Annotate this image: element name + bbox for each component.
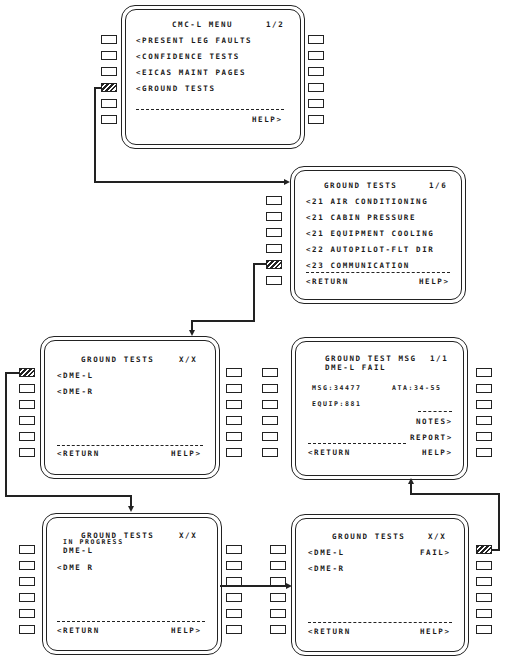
line-select-key-r6[interactable] — [476, 448, 492, 457]
line-select-key-l5[interactable] — [19, 609, 35, 618]
line-select-key-r2[interactable] — [226, 384, 242, 393]
menu-item-ground-tests[interactable]: <GROUND TESTS — [136, 84, 216, 93]
line-select-key-l6[interactable] — [266, 276, 282, 285]
line-select-key-l2[interactable] — [19, 384, 35, 393]
line-select-key-l1[interactable] — [262, 368, 278, 377]
help-prompt[interactable]: HELP> — [420, 627, 451, 636]
return-prompt[interactable]: <RETURN — [57, 626, 100, 635]
menu-item-air-conditioning[interactable]: <21 AIR CONDITIONING — [306, 197, 428, 206]
help-prompt[interactable]: HELP> — [422, 448, 453, 457]
menu-item-dme-l[interactable]: <DME-L — [57, 371, 94, 380]
menu-item-equipment-cooling[interactable]: <21 EQUIPMENT COOLING — [306, 229, 434, 238]
line-select-key-r5[interactable] — [226, 432, 242, 441]
line-select-key-l4[interactable] — [19, 416, 35, 425]
line-select-key-r1[interactable] — [226, 545, 242, 554]
line-select-key-l1[interactable] — [19, 545, 35, 554]
divider — [308, 443, 406, 444]
menu-item-communication[interactable]: <23 COMMUNICATION — [306, 261, 410, 270]
line-select-key-l1[interactable] — [270, 545, 286, 554]
line-select-key-l2[interactable] — [266, 212, 282, 221]
line-select-key-r4[interactable] — [476, 416, 492, 425]
fail-result-prompt[interactable]: FAIL> — [420, 548, 451, 557]
divider — [57, 621, 205, 622]
return-prompt[interactable]: <RETURN — [308, 627, 351, 636]
arrow-icon — [128, 506, 134, 512]
line-select-key-r6[interactable] — [476, 625, 492, 634]
line-select-key-r1-pressed[interactable] — [476, 545, 492, 554]
line-select-key-l6[interactable] — [270, 625, 286, 634]
line-select-key-r2[interactable] — [476, 561, 492, 570]
line-select-key-r3[interactable] — [308, 67, 324, 76]
line-select-key-l5[interactable] — [270, 609, 286, 618]
menu-item-present-leg-faults[interactable]: <PRESENT LEG FAULTS — [136, 36, 252, 45]
line-select-key-l5[interactable] — [262, 432, 278, 441]
line-select-key-r5[interactable] — [476, 609, 492, 618]
help-prompt[interactable]: HELP> — [171, 626, 202, 635]
return-prompt[interactable]: <RETURN — [306, 277, 349, 286]
menu-item-dme-r[interactable]: <DME-R — [308, 564, 345, 573]
help-prompt[interactable]: HELP> — [252, 115, 283, 124]
menu-item-dme-l[interactable]: <DME-L — [308, 548, 345, 557]
line-select-key-l1[interactable] — [101, 35, 117, 44]
line-select-key-l1-pressed[interactable] — [19, 368, 35, 377]
line-select-key-l2[interactable] — [262, 384, 278, 393]
line-select-key-r1[interactable] — [308, 35, 324, 44]
line-select-key-l3[interactable] — [270, 577, 286, 586]
menu-item-dme-r[interactable]: <DME R — [57, 563, 94, 572]
line-select-key-r5[interactable] — [476, 432, 492, 441]
line-select-key-r6[interactable] — [226, 625, 242, 634]
page-number: X/X — [428, 532, 446, 541]
line-select-key-r5[interactable] — [226, 609, 242, 618]
line-select-key-l2[interactable] — [101, 51, 117, 60]
line-select-key-l4[interactable] — [266, 244, 282, 253]
connector-line — [498, 493, 500, 551]
line-select-key-l5-pressed[interactable] — [266, 260, 282, 269]
notes-prompt[interactable]: NOTES> — [416, 417, 453, 426]
line-select-key-r6[interactable] — [226, 448, 242, 457]
line-select-key-r5[interactable] — [308, 99, 324, 108]
line-select-key-r2[interactable] — [226, 561, 242, 570]
line-select-key-r4[interactable] — [308, 83, 324, 92]
line-select-key-r1[interactable] — [476, 368, 492, 377]
help-prompt[interactable]: HELP> — [419, 277, 450, 286]
line-select-key-r3[interactable] — [476, 577, 492, 586]
line-select-key-r4[interactable] — [476, 593, 492, 602]
menu-item-confidence-tests[interactable]: <CONFIDENCE TESTS — [136, 52, 240, 61]
line-select-key-l4[interactable] — [262, 416, 278, 425]
line-select-key-l4-pressed[interactable] — [101, 83, 117, 92]
menu-item-dme-r[interactable]: <DME-R — [57, 387, 94, 396]
report-prompt[interactable]: REPORT> — [410, 433, 453, 442]
line-select-key-r6[interactable] — [308, 115, 324, 124]
return-prompt[interactable]: <RETURN — [308, 448, 351, 457]
line-select-key-r2[interactable] — [308, 51, 324, 60]
line-select-key-l2[interactable] — [270, 561, 286, 570]
line-select-key-l3[interactable] — [19, 400, 35, 409]
menu-item-eicas-maint-pages[interactable]: <EICAS MAINT PAGES — [136, 68, 246, 77]
line-select-key-l6[interactable] — [19, 625, 35, 634]
line-select-key-l5[interactable] — [101, 99, 117, 108]
line-select-key-l2[interactable] — [19, 561, 35, 570]
help-prompt[interactable]: HELP> — [171, 449, 202, 458]
line-select-key-l3[interactable] — [101, 67, 117, 76]
menu-item-autopilot-flt-dir[interactable]: <22 AUTOPILOT-FLT DIR — [306, 245, 434, 254]
return-prompt[interactable]: <RETURN — [57, 449, 100, 458]
line-select-key-l6[interactable] — [101, 115, 117, 124]
line-select-key-l3[interactable] — [262, 400, 278, 409]
line-select-key-r2[interactable] — [476, 384, 492, 393]
line-select-key-l5[interactable] — [19, 432, 35, 441]
line-select-key-r3[interactable] — [226, 400, 242, 409]
menu-item-cabin-pressure[interactable]: <21 CABIN PRESSURE — [306, 213, 416, 222]
line-select-key-l3[interactable] — [266, 228, 282, 237]
line-select-key-l4[interactable] — [270, 593, 286, 602]
line-select-key-l4[interactable] — [19, 593, 35, 602]
line-select-key-l3[interactable] — [19, 577, 35, 586]
ground-tests-result-screen: GROUND TESTS X/X <DME-L FAIL> <DME-R <RE… — [291, 514, 469, 656]
line-select-key-l1[interactable] — [266, 196, 282, 205]
line-select-key-r4[interactable] — [226, 416, 242, 425]
line-select-key-l6[interactable] — [19, 448, 35, 457]
ata-code: ATA:34-55 — [392, 384, 442, 393]
line-select-key-l6[interactable] — [262, 448, 278, 457]
line-select-key-r3[interactable] — [476, 400, 492, 409]
line-select-key-r4[interactable] — [226, 593, 242, 602]
line-select-key-r1[interactable] — [226, 368, 242, 377]
